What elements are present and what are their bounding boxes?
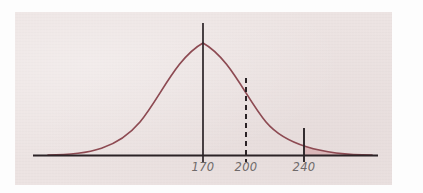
bell-curve-line	[48, 43, 372, 155]
shaded-tail-region	[48, 43, 372, 155]
x-tick-label-200: 200	[234, 160, 257, 174]
x-tick-label-240: 240	[292, 160, 315, 174]
figure-root: 170 200 240	[0, 0, 423, 193]
x-tick-label-170: 170	[191, 160, 214, 174]
